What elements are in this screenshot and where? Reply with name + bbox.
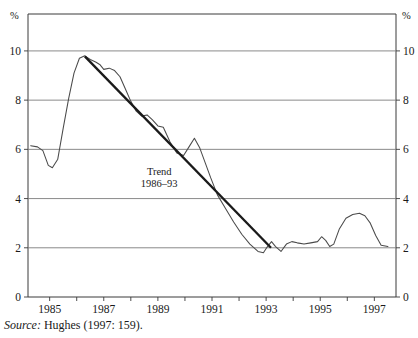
y-tick-label-right-6: 6	[403, 143, 409, 155]
y-tick-label-left-2: 2	[15, 242, 21, 254]
y-tick-label-left-10: 10	[10, 45, 22, 57]
x-axis-ticks: 1985198719891991199319951997	[38, 297, 386, 315]
y-axis-left-unit: %	[10, 10, 19, 21]
y-axis-right-ticks: 0246810	[396, 45, 415, 303]
trend-annotation-line1: Trend	[147, 166, 172, 177]
y-tick-label-left-0: 0	[15, 291, 21, 303]
y-tick-label-left-6: 6	[15, 143, 21, 155]
series-group	[31, 56, 388, 253]
inflation-trend-figure: 0246810 0246810 198519871989199119931995…	[0, 0, 418, 338]
y-tick-label-left-8: 8	[15, 94, 21, 106]
y-axis-left-ticks: 0246810	[10, 45, 29, 303]
x-tick-label-1987: 1987	[92, 303, 115, 315]
x-tick-label-1991: 1991	[201, 303, 224, 315]
source-label: Source:	[4, 318, 41, 332]
trend-annotation: Trend 1986–93	[141, 166, 178, 189]
y-tick-label-right-8: 8	[403, 94, 409, 106]
inflation-rate-line	[31, 56, 388, 253]
x-tick-label-1997: 1997	[363, 303, 386, 315]
y-tick-label-right-4: 4	[403, 193, 409, 205]
trend-line	[85, 56, 271, 247]
source-note: Source: Hughes (1997: 159).	[4, 318, 143, 332]
x-tick-label-1985: 1985	[38, 303, 61, 315]
x-tick-label-1993: 1993	[255, 303, 278, 315]
y-tick-label-right-10: 10	[403, 45, 415, 57]
y-tick-label-left-4: 4	[15, 193, 21, 205]
gridlines	[28, 51, 396, 248]
y-tick-label-right-2: 2	[403, 242, 409, 254]
x-tick-label-1989: 1989	[146, 303, 169, 315]
y-axis-right-unit: %	[402, 10, 411, 21]
source-citation: Hughes (1997: 159).	[44, 318, 143, 332]
trend-annotation-line2: 1986–93	[141, 178, 178, 189]
y-tick-label-right-0: 0	[403, 291, 409, 303]
line-chart: 0246810 0246810 198519871989199119931995…	[0, 0, 418, 338]
x-tick-label-1995: 1995	[309, 303, 332, 315]
